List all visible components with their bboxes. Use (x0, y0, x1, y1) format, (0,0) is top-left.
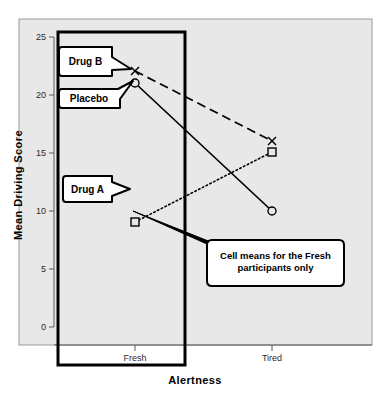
callout-label-placebo: Placebo (59, 93, 119, 104)
callout-label-drug-b: Drug B (59, 56, 112, 67)
marker-placebo-tired (268, 207, 276, 215)
callout-label-cell-means-line2: participants only (211, 262, 340, 273)
y-tick-label-15: 15 (26, 148, 46, 158)
y-axis-title: Mean Driving Score (12, 130, 24, 240)
x-tick-label-fresh: Fresh (105, 353, 165, 363)
y-tick-label-5: 5 (26, 264, 46, 274)
marker-drug-a-tired (268, 148, 276, 156)
y-tick-label-20: 20 (26, 90, 46, 100)
chart-figure: 25 20 15 10 5 0 Fresh Tired Alertness Me… (0, 0, 389, 399)
x-axis-title: Alertness (145, 374, 245, 386)
callout-label-cell-means-line1: Cell means for the Fresh (211, 250, 340, 261)
x-tick-label-tired: Tired (242, 353, 302, 363)
y-tick-label-0: 0 (26, 322, 46, 332)
callout-label-drug-a: Drug A (63, 184, 112, 195)
marker-drug-a-fresh (131, 218, 139, 226)
y-tick-label-10: 10 (26, 206, 46, 216)
y-tick-label-25: 25 (26, 32, 46, 42)
